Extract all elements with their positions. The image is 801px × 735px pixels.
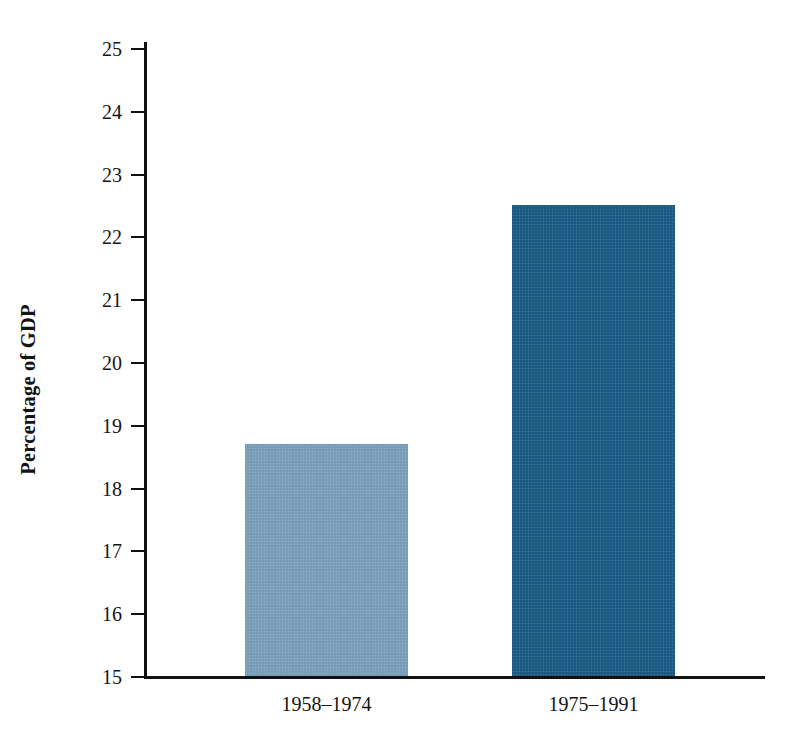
y-axis-title: Percentage of GDP [0, 0, 56, 735]
y-axis-tick: 16 [131, 613, 144, 615]
bar [512, 205, 675, 676]
y-axis-tick-label: 20 [102, 353, 122, 373]
y-axis-tick-label: 24 [102, 101, 122, 121]
y-axis-tick-label: 19 [102, 415, 122, 435]
y-axis-tick-label: 17 [102, 541, 122, 561]
y-axis-tick: 15 [131, 676, 144, 678]
y-axis-tick-label: 23 [102, 164, 122, 184]
x-axis-category-label: 1958–1974 [197, 693, 457, 716]
y-axis-tick-label: 16 [102, 604, 122, 624]
bar [245, 444, 408, 676]
x-axis-category-label: 1975–1991 [464, 693, 724, 716]
y-axis-tick: 19 [131, 425, 144, 427]
y-axis-tick-label: 18 [102, 478, 122, 498]
y-axis-title-text: Percentage of GDP [17, 304, 40, 474]
y-axis-tick: 20 [131, 362, 144, 364]
y-axis-tick: 23 [131, 174, 144, 176]
y-axis-tick: 17 [131, 550, 144, 552]
y-axis-tick-label: 15 [102, 667, 122, 687]
y-axis-tick: 18 [131, 488, 144, 490]
plot-area: 1516171819202122232425 1958–19741975–199… [144, 48, 765, 676]
y-axis-tick: 25 [131, 48, 144, 50]
y-axis-tick-label: 25 [102, 39, 122, 59]
y-axis-line [144, 42, 147, 676]
y-axis-tick: 21 [131, 299, 144, 301]
y-axis-tick-label: 21 [102, 290, 122, 310]
y-axis-tick: 22 [131, 236, 144, 238]
bar-chart: Percentage of GDP 1516171819202122232425… [0, 0, 801, 735]
y-axis-tick: 24 [131, 111, 144, 113]
y-axis-tick-label: 22 [102, 227, 122, 247]
x-axis-line [144, 676, 765, 679]
